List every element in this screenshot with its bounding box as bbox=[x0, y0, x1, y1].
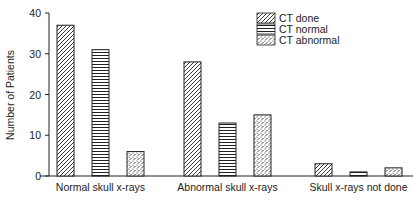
y-axis-label: Number of Patients bbox=[4, 50, 16, 140]
bar bbox=[92, 50, 109, 176]
legend: CT doneCT normalCT abnormal bbox=[257, 12, 340, 46]
x-category-label: Skull x-rays not done bbox=[309, 181, 407, 193]
legend-swatch bbox=[257, 13, 275, 23]
bar-chart: 010203040 Number of Patients Normal skul… bbox=[0, 0, 413, 203]
legend-swatch bbox=[257, 24, 275, 34]
legend-label: CT abnormal bbox=[279, 34, 340, 46]
bar bbox=[219, 123, 236, 176]
y-tick-label: 30 bbox=[29, 48, 41, 60]
bar bbox=[385, 168, 402, 176]
bar bbox=[127, 152, 144, 176]
bars bbox=[57, 25, 402, 176]
x-category-label: Normal skull x-rays bbox=[56, 181, 145, 193]
bar bbox=[315, 164, 332, 176]
bar bbox=[254, 115, 271, 176]
y-tick-label: 10 bbox=[29, 129, 41, 141]
bar bbox=[184, 62, 201, 176]
y-axis: 010203040 Number of Patients bbox=[4, 7, 49, 182]
bar bbox=[350, 172, 367, 176]
x-category-label: Abnormal skull x-rays bbox=[177, 181, 277, 193]
y-tick-label: 40 bbox=[29, 7, 41, 19]
bar bbox=[57, 25, 74, 176]
x-axis-labels: Normal skull x-raysAbnormal skull x-rays… bbox=[56, 181, 408, 193]
legend-swatch bbox=[257, 35, 275, 45]
y-tick-label: 20 bbox=[29, 89, 41, 101]
